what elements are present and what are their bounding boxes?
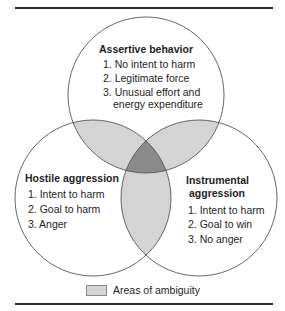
assertive-item-2: 2. Legitimate force	[103, 71, 189, 85]
instrumental-item-2: 2. Goal to win	[188, 217, 252, 231]
instrumental-title-line1: Instrumental	[186, 174, 249, 187]
instrumental-title-line2: aggression	[189, 187, 245, 200]
instrumental-item-3: 3. No anger	[188, 232, 243, 246]
assertive-item-3-cont: energy expenditure	[113, 97, 203, 111]
legend-swatch-ambiguity	[86, 285, 107, 296]
assertive-title: Assertive behavior	[99, 43, 193, 56]
hostile-item-3: 3. Anger	[28, 217, 67, 231]
hostile-title: Hostile aggression	[25, 172, 119, 185]
hostile-item-2: 2. Goal to harm	[28, 202, 100, 216]
hostile-item-1: 1. Intent to harm	[28, 187, 104, 201]
legend-label: Areas of ambiguity	[113, 284, 200, 296]
instrumental-item-1: 1. Intent to harm	[188, 203, 264, 217]
assertive-item-1: 1. No intent to harm	[103, 57, 195, 71]
